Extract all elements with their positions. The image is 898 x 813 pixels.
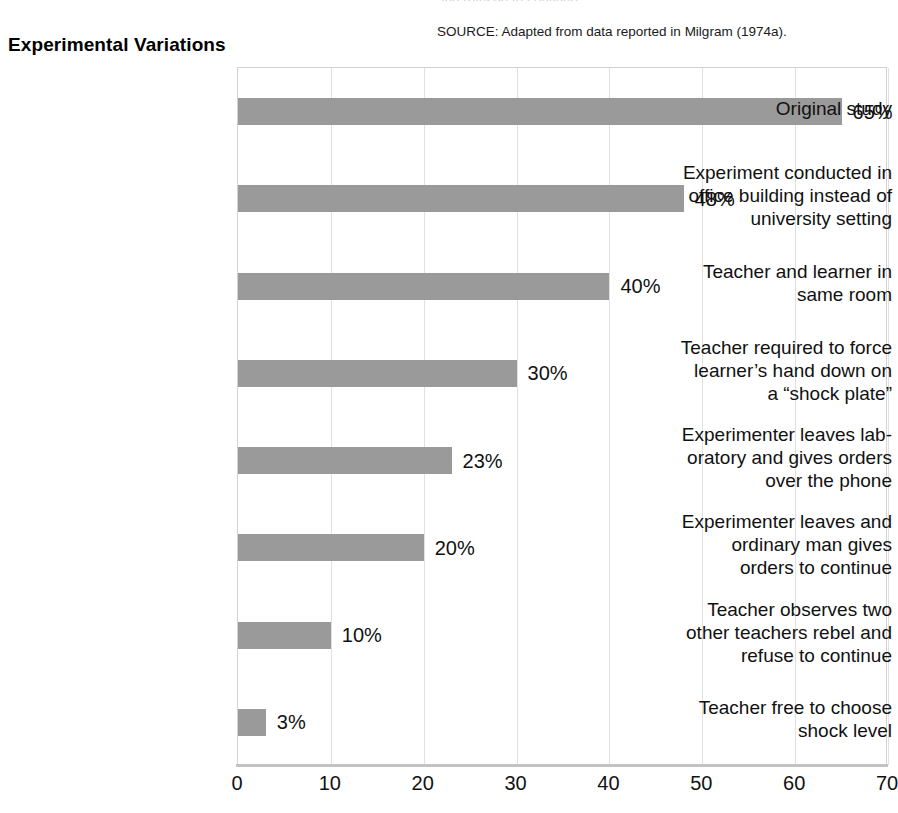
category-label-line: oratory and gives orders (666, 446, 892, 469)
category-label-line: ordinary man gives (666, 533, 892, 556)
source-note: SOURCE: Adapted from data reported in Mi… (437, 24, 787, 39)
bar-value-label: 10% (342, 624, 382, 647)
category-label-line: refuse to continue (666, 644, 892, 667)
gridline-30 (517, 68, 518, 765)
bar[interactable] (238, 447, 452, 474)
x-tick-label-30: 30 (504, 772, 526, 795)
category-label-line: over the phone (666, 469, 892, 492)
category-label-line: learner’s hand down on (666, 359, 892, 382)
bar-value-label: 40% (620, 275, 660, 298)
bar[interactable] (238, 709, 266, 736)
x-tick-label-70: 70 (876, 772, 898, 795)
bar-value-label: 23% (463, 449, 503, 472)
category-label-line: Teacher required to force (666, 336, 892, 359)
category-label: Original study (666, 97, 898, 120)
bar[interactable] (238, 273, 609, 300)
bar[interactable] (238, 534, 424, 561)
category-label-line: Experimenter leaves and (666, 510, 892, 533)
x-tick-label-60: 60 (783, 772, 805, 795)
category-label-line: Experiment conducted in (666, 161, 892, 184)
category-label-line: same room (666, 283, 892, 306)
bar-value-label: 30% (528, 362, 568, 385)
bar-value-label: 3% (277, 711, 306, 734)
category-label-line: Teacher and learner in (666, 260, 892, 283)
category-label-line: shock level (666, 719, 892, 742)
category-label: Teacher observes twoother teachers rebel… (666, 598, 898, 667)
category-label: Teacher free to chooseshock level (666, 696, 898, 742)
page-title: Experimental Variations (8, 34, 226, 56)
x-axis-line (236, 764, 888, 767)
category-label-line: university setting (666, 207, 892, 230)
bar[interactable] (238, 622, 331, 649)
gridline-40 (609, 68, 610, 765)
category-label: Experimenter leaves andordinary man give… (666, 510, 898, 579)
bar[interactable] (238, 185, 684, 212)
category-label-line: Experimenter leaves lab- (666, 423, 892, 446)
category-label: Teacher and learner insame room (666, 260, 898, 306)
category-label-line: other teachers rebel and (666, 621, 892, 644)
category-label-line: Original study (666, 97, 892, 120)
x-tick-label-50: 50 (690, 772, 712, 795)
x-tick-label-10: 10 (319, 772, 341, 795)
bar-value-label: 20% (435, 536, 475, 559)
x-tick-label-0: 0 (231, 772, 242, 795)
clipped-caption-above: and refused to continue. (437, 0, 582, 1)
category-label: Experimenter leaves lab-oratory and give… (666, 423, 898, 492)
category-label: Teacher required to forcelearner’s hand … (666, 336, 898, 405)
category-label-line: a “shock plate” (666, 382, 892, 405)
category-label-line: Teacher observes two (666, 598, 892, 621)
x-tick-label-40: 40 (597, 772, 619, 795)
category-label-line: office building instead of (666, 184, 892, 207)
category-label-line: Teacher free to choose (666, 696, 892, 719)
gridline-10 (331, 68, 332, 765)
bar[interactable] (238, 360, 517, 387)
gridline-20 (424, 68, 425, 765)
category-label: Experiment conducted inoffice building i… (666, 161, 898, 230)
x-tick-label-20: 20 (412, 772, 434, 795)
category-label-line: orders to continue (666, 556, 892, 579)
